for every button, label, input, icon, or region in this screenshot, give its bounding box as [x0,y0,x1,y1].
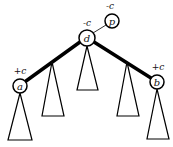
node-b: b +c [150,62,164,89]
node-a-label: a [17,81,23,92]
subtree-triangle-b [147,89,169,139]
node-b-weight: +c [152,62,165,72]
tree-diagram: d -c p -c a +c b +c [0,0,173,147]
node-d-weight: -c [83,18,91,28]
edge-d-b [94,42,151,78]
node-p: p -c [105,1,119,28]
node-d-label: d [84,33,90,44]
node-d: d -c [79,18,95,46]
node-a-weight: +c [14,66,27,76]
node-p-weight: -c [106,1,114,11]
node-p-label: p [109,16,116,27]
edge-d-p [93,25,106,33]
node-a: a +c [13,66,27,93]
node-b-label: b [154,77,160,88]
subtree-triangle-left-mid [42,62,64,116]
subtree-triangle-a [8,93,32,140]
subtree-triangle-center [77,46,98,90]
